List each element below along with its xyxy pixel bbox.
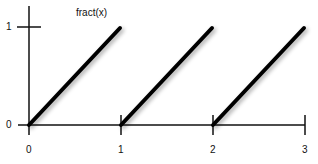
fract-chart: 1 0 0 1 2 3 fract(x)	[0, 0, 318, 164]
x-tick-label-2: 2	[210, 144, 216, 155]
x-tick-label-1: 1	[118, 144, 124, 155]
chart-title: fract(x)	[76, 7, 107, 18]
segment-0	[29, 28, 120, 125]
y-tick-label-1: 1	[6, 21, 12, 32]
segment-1	[121, 28, 212, 125]
x-tick-label-3: 3	[302, 144, 308, 155]
segment-2	[213, 28, 304, 125]
y-tick-label-0: 0	[6, 119, 12, 130]
x-tick-label-0: 0	[26, 144, 32, 155]
